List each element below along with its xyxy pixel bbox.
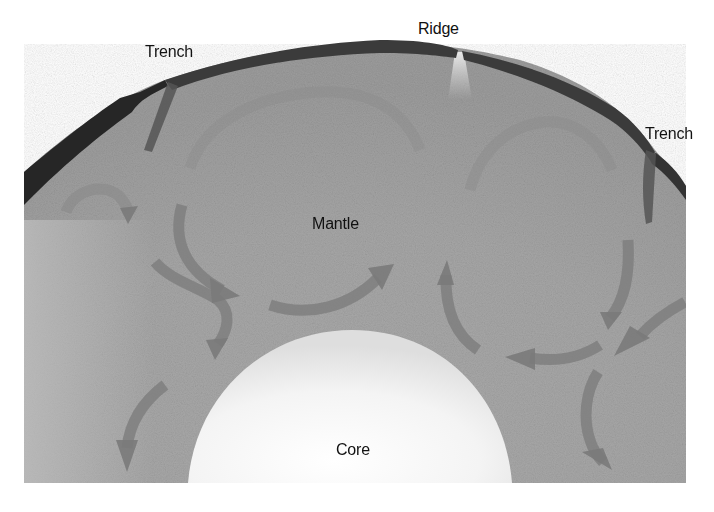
label-trench-left: Trench <box>145 44 193 60</box>
label-ridge: Ridge <box>418 21 459 37</box>
label-mantle: Mantle <box>312 216 359 232</box>
label-core: Core <box>336 442 370 458</box>
label-trench-right: Trench <box>645 126 693 142</box>
mantle-convection-diagram <box>0 0 714 512</box>
